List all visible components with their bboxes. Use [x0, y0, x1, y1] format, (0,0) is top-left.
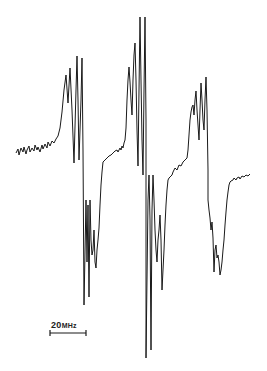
scale-bar-unit: MHz [62, 322, 77, 329]
scale-bar-label: 20MHz [51, 320, 77, 330]
spectrum-trace [16, 17, 250, 358]
spectrum-plot [0, 0, 267, 371]
scale-bar [50, 330, 86, 336]
scale-bar-value: 20 [51, 320, 62, 330]
